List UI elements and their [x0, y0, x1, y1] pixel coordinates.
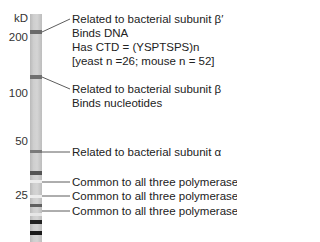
annotation-beta-prime: Related to bacterial subunit β′ Binds DN… [72, 12, 223, 68]
annotation-line: Common to all three polymerases [72, 175, 237, 189]
annotation-common-2: Common to all three polymerases [72, 189, 237, 203]
annotation-common-3: Common to all three polymerases [72, 204, 237, 218]
annotation-line: Related to bacterial subunit β [72, 82, 221, 96]
annotation-beta: Related to bacterial subunit β Binds nuc… [72, 82, 221, 110]
annotation-line: Related to bacterial subunit β′ [72, 12, 223, 26]
annotation-line: [yeast n =26; mouse n = 52] [72, 54, 223, 68]
annotation-line: Related to bacterial subunit α [72, 145, 221, 159]
annotation-line: Binds nucleotides [72, 96, 221, 110]
annotation-common-1: Common to all three polymerases [72, 175, 237, 189]
annotation-line: Binds DNA [72, 26, 223, 40]
annotation-line: Common to all three polymerases [72, 189, 237, 203]
annotation-alpha: Related to bacterial subunit α [72, 145, 221, 159]
annotation-line: Common to all three polymerases [72, 204, 237, 218]
annotation-line: Has CTD = (YSPTSPS)n [72, 40, 223, 54]
